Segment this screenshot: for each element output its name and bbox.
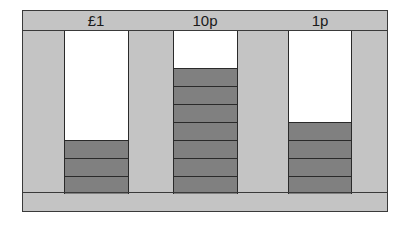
coin-block — [174, 140, 237, 158]
stack-pound — [65, 140, 128, 194]
coin-block — [174, 158, 237, 176]
coin-block — [174, 104, 237, 122]
coin-block — [289, 122, 351, 140]
stack-10p — [174, 68, 237, 194]
column-label-pound: £1 — [64, 12, 128, 30]
coin-block — [289, 140, 351, 158]
chart-header-row: £1 10p 1p — [23, 11, 387, 31]
coin-block — [65, 158, 128, 176]
column-pound — [64, 31, 129, 194]
coin-block — [174, 122, 237, 140]
column-10p — [173, 31, 238, 194]
coin-block — [174, 86, 237, 104]
coin-block — [174, 68, 237, 86]
column-label-1p: 1p — [288, 12, 352, 30]
stack-1p — [289, 122, 351, 194]
chart-base-strip — [23, 192, 387, 211]
coin-block — [289, 158, 351, 176]
column-label-10p: 10p — [173, 12, 237, 30]
coin-block — [65, 140, 128, 158]
column-1p — [288, 31, 352, 194]
coin-chart-frame: £1 10p 1p — [22, 10, 388, 212]
